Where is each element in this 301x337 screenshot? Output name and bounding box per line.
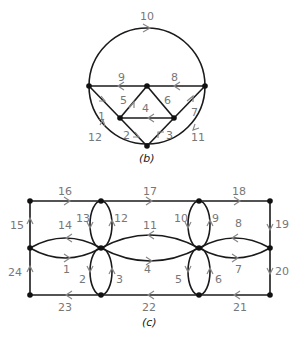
edge-label: 18 xyxy=(232,185,246,198)
graph-figures: 10 9 8 5 4 6 1 7 12 2 3 11 (b) xyxy=(0,0,301,337)
edge-label: 6 xyxy=(215,273,222,286)
edge-label: 3 xyxy=(116,273,123,286)
edge-label: 8 xyxy=(171,71,178,84)
edge-label: 3 xyxy=(166,129,173,142)
edge-1 xyxy=(30,248,101,258)
edge-label: 19 xyxy=(275,218,289,231)
edge-label: 1 xyxy=(63,263,70,276)
loop-9-10 xyxy=(188,201,210,248)
edge-label: 23 xyxy=(58,301,72,314)
edge-label: 21 xyxy=(233,301,247,314)
figure-b: 10 9 8 5 4 6 1 7 12 2 3 11 (b) xyxy=(86,10,208,165)
caption-b: (b) xyxy=(139,152,155,165)
edge-label: 7 xyxy=(191,106,198,119)
edge-label: 9 xyxy=(212,212,219,225)
edge-label: 15 xyxy=(10,219,24,232)
edge-label: 5 xyxy=(120,94,127,107)
edge-label: 11 xyxy=(143,219,157,232)
edge-label: 8 xyxy=(235,217,242,230)
edge-label: 1 xyxy=(98,110,105,123)
loop-5-6 xyxy=(188,248,210,295)
edge-label: 24 xyxy=(8,266,22,279)
edge-14 xyxy=(30,238,101,248)
edge-label: 11 xyxy=(191,131,205,144)
nodes-c xyxy=(27,198,273,298)
edge-label: 16 xyxy=(58,185,72,198)
loop-12-13 xyxy=(90,201,112,248)
edge-7 xyxy=(174,86,205,118)
edge-7 xyxy=(199,248,270,258)
loop-2-3 xyxy=(90,248,112,295)
arrow-icon xyxy=(129,102,134,108)
figure-c: 16 17 18 15 14 13 12 11 10 9 8 19 24 1 2… xyxy=(8,185,289,329)
edge-label: 6 xyxy=(164,94,171,107)
edge-label: 4 xyxy=(142,102,149,115)
edge-label: 10 xyxy=(174,212,188,225)
edge-label: 2 xyxy=(123,129,130,142)
arrow-icon xyxy=(193,124,199,130)
edge-label: 22 xyxy=(142,301,156,314)
edge-label: 10 xyxy=(140,10,154,23)
edge-label: 17 xyxy=(143,185,157,198)
edge-label: 5 xyxy=(175,273,182,286)
edge-label: 20 xyxy=(275,265,289,278)
edge-label: 12 xyxy=(88,131,102,144)
edge-label: 4 xyxy=(144,263,151,276)
edge-label: 7 xyxy=(235,263,242,276)
caption-c: (c) xyxy=(142,316,157,329)
edge-label: 12 xyxy=(114,212,128,225)
edge-label: 2 xyxy=(79,273,86,286)
edge-label: 14 xyxy=(58,219,72,232)
edge-label: 9 xyxy=(118,71,125,84)
edge-label: 13 xyxy=(76,212,90,225)
